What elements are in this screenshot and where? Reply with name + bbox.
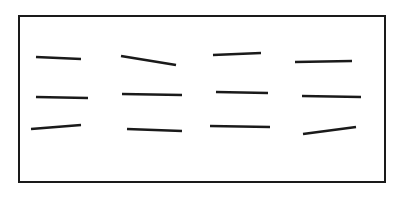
line-segment-r2-c1: [36, 97, 88, 98]
line-segment-r1-c1: [36, 57, 81, 59]
line-segment-r2-c3: [216, 92, 268, 93]
line-segments-group: [31, 53, 361, 134]
line-segment-r2-c4: [302, 96, 361, 97]
line-segment-r3-c2: [127, 129, 182, 131]
line-segment-r1-c3: [213, 53, 261, 55]
line-segment-r1-c4: [295, 61, 352, 62]
line-segment-r2-c2: [122, 94, 182, 95]
diagram-canvas: [0, 0, 398, 199]
line-segment-r3-c3: [210, 126, 270, 127]
line-segment-r3-c4: [303, 127, 356, 134]
line-segment-r3-c1: [31, 125, 81, 129]
line-segment-r1-c2: [121, 56, 176, 65]
